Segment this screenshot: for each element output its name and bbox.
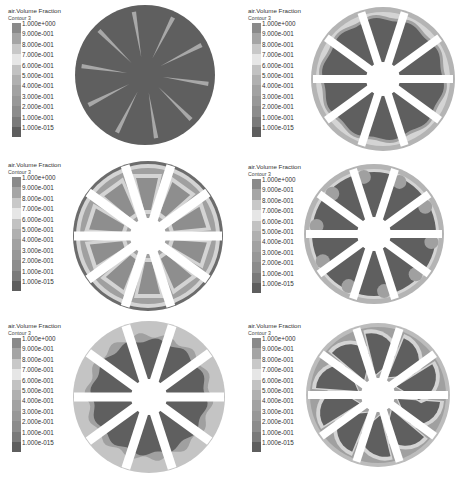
- colorbar-band: [252, 348, 261, 358]
- colorbar-band: [252, 380, 261, 390]
- colorbar-band: [252, 262, 261, 272]
- colorbar-ticks: 1.000e+0009.000e-0018.000e-0017.000e-001…: [22, 173, 55, 287]
- colorbar-band: [252, 273, 261, 283]
- colorbar-band: [252, 369, 261, 379]
- colorbar-band: [12, 421, 21, 431]
- colorbar-band: [12, 23, 21, 33]
- colorbar-tick-label: 7.000e-001: [262, 206, 295, 216]
- colorbar-tick-label: 1.000e+000: [22, 173, 55, 183]
- contour-plot-5: [70, 318, 228, 476]
- colorbar-band: [252, 200, 261, 210]
- contour-plot-2: [308, 4, 458, 154]
- colorbar-band: [12, 338, 21, 348]
- colorbar-tick-label: 1.000e+000: [262, 19, 295, 29]
- colorbar-band: [252, 359, 261, 369]
- colorbar-band: [12, 187, 21, 197]
- colorbar-tick-label: 2.000e-001: [22, 102, 55, 112]
- colorbar-tick-label: 4.000e-001: [22, 235, 55, 245]
- colorbar-tick-label: 4.000e-001: [22, 81, 55, 91]
- colorbar-band: [12, 65, 21, 75]
- colorbar-tick-label: 3.000e-001: [262, 407, 295, 417]
- colorbar-tick-label: 1.000e-015: [22, 277, 55, 287]
- colorbar-band: [12, 271, 21, 281]
- colorbar-band: [12, 400, 21, 410]
- colorbar-band: [252, 432, 261, 442]
- colorbar-tick-label: 6.000e-001: [262, 217, 295, 227]
- colorbar-band: [252, 44, 261, 54]
- colorbar-band: [12, 380, 21, 390]
- colorbar-tick-label: 1.000e-015: [22, 438, 55, 448]
- colorbar-band: [252, 400, 261, 410]
- colorbar-tick-label: 2.000e-001: [262, 417, 295, 427]
- colorbar-tick-label: 9.000e-001: [22, 344, 55, 354]
- colorbar-band: [252, 85, 261, 95]
- colorbar-tick-label: 5.000e-001: [262, 386, 295, 396]
- colorbar-tick-label: 1.000e-015: [262, 279, 295, 289]
- colorbar-tick-label: 2.000e-001: [22, 417, 55, 427]
- colorbar-tick-label: 9.000e-001: [262, 29, 295, 39]
- colorbar-tick-label: 7.000e-001: [22, 365, 55, 375]
- colorbar: [252, 338, 261, 452]
- colorbar-tick-label: 7.000e-001: [262, 365, 295, 375]
- colorbar-band: [12, 54, 21, 64]
- colorbar-tick-label: 5.000e-001: [22, 71, 55, 81]
- colorbar-band: [12, 198, 21, 208]
- colorbar-tick-label: 8.000e-001: [22, 355, 55, 365]
- colorbar-tick-label: 1.000e-001: [262, 428, 295, 438]
- colorbar-ticks: 1.000e+0009.000e-0018.000e-0017.000e-001…: [22, 334, 55, 448]
- colorbar-band: [12, 75, 21, 85]
- colorbar-band: [252, 283, 261, 293]
- colorbar-band: [252, 231, 261, 241]
- colorbar-tick-label: 8.000e-001: [262, 196, 295, 206]
- colorbar-tick-label: 5.000e-001: [262, 227, 295, 237]
- colorbar-band: [12, 239, 21, 249]
- colorbar-ticks: 1.000e+0009.000e-0018.000e-0017.000e-001…: [262, 334, 295, 448]
- colorbar-tick-label: 1.000e-001: [262, 269, 295, 279]
- colorbar-tick-label: 1.000e+000: [262, 334, 295, 344]
- colorbar-band: [12, 411, 21, 421]
- colorbar-band: [12, 219, 21, 229]
- colorbar-tick-label: 3.000e-001: [262, 248, 295, 258]
- colorbar-ticks: 1.000e+0009.000e-0018.000e-0017.000e-001…: [262, 175, 295, 289]
- colorbar-band: [252, 23, 261, 33]
- colorbar-band: [12, 369, 21, 379]
- colorbar-band: [252, 390, 261, 400]
- colorbar-band: [252, 33, 261, 43]
- colorbar-band: [12, 359, 21, 369]
- colorbar-band: [252, 442, 261, 452]
- colorbar-band: [12, 127, 21, 137]
- colorbar-band: [252, 252, 261, 262]
- colorbar-tick-label: 1.000e-015: [262, 123, 295, 133]
- colorbar-tick-label: 8.000e-001: [22, 40, 55, 50]
- colorbar-band: [12, 390, 21, 400]
- colorbar-band: [252, 210, 261, 220]
- contour-plot-6: [303, 320, 453, 470]
- contour-plot-4: [301, 161, 447, 307]
- colorbar-band: [252, 179, 261, 189]
- legend: air.Volume Fraction Contour 3 1.000e+000…: [8, 8, 78, 21]
- colorbar-tick-label: 3.000e-001: [262, 92, 295, 102]
- colorbar-tick-label: 1.000e-001: [22, 113, 55, 123]
- colorbar-tick-label: 6.000e-001: [262, 61, 295, 71]
- colorbar-band: [12, 85, 21, 95]
- colorbar-tick-label: 4.000e-001: [22, 396, 55, 406]
- colorbar-tick-label: 4.000e-001: [262, 81, 295, 91]
- colorbar-band: [252, 127, 261, 137]
- colorbar-tick-label: 2.000e-001: [22, 256, 55, 266]
- colorbar-tick-label: 9.000e-001: [262, 185, 295, 195]
- colorbar-band: [12, 177, 21, 187]
- colorbar: [252, 23, 261, 137]
- legend: air.Volume Fraction Contour 3 1.000e+000…: [8, 162, 78, 175]
- colorbar-band: [252, 65, 261, 75]
- colorbar-tick-label: 7.000e-001: [22, 204, 55, 214]
- colorbar-tick-label: 3.000e-001: [22, 92, 55, 102]
- contour-plot-3: [70, 158, 226, 314]
- colorbar-band: [252, 54, 261, 64]
- colorbar-band: [12, 260, 21, 270]
- colorbar-tick-label: 7.000e-001: [262, 50, 295, 60]
- colorbar-tick-label: 2.000e-001: [262, 258, 295, 268]
- colorbar-tick-label: 8.000e-001: [22, 194, 55, 204]
- colorbar-tick-label: 4.000e-001: [262, 396, 295, 406]
- colorbar-band: [252, 96, 261, 106]
- colorbar-tick-label: 9.000e-001: [22, 29, 55, 39]
